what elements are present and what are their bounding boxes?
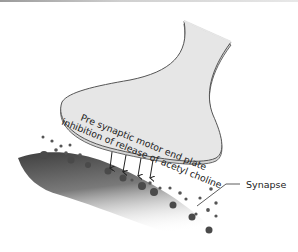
neuromuscular-junction-diagram: Pre synaptic motor end plate inhibition …	[0, 0, 298, 252]
arrow-2	[123, 155, 126, 172]
arrow-3	[138, 158, 141, 176]
synapse-label: Synapse	[246, 179, 286, 190]
